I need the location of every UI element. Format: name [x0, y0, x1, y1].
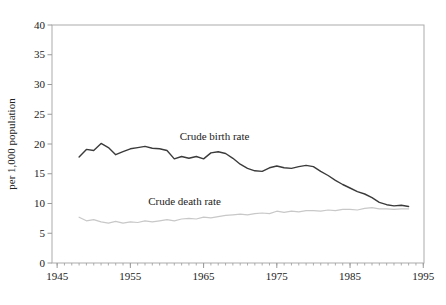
y-tick-label: 35 [34, 48, 46, 60]
plot-frame [52, 25, 424, 263]
y-tick-label: 5 [40, 227, 46, 239]
y-tick-label: 15 [34, 167, 46, 179]
y-tick-label: 20 [34, 138, 46, 150]
crude-birth-rate-line [79, 143, 409, 206]
y-tick-label: 30 [34, 78, 46, 90]
y-tick-label: 40 [34, 19, 46, 31]
x-tick-label: 1955 [119, 270, 142, 282]
crude-death-rate-line [79, 208, 409, 223]
y-tick-label: 0 [40, 257, 46, 269]
x-tick-label: 1975 [266, 270, 289, 282]
crude-birth-rate-label: Crude birth rate [180, 130, 250, 142]
crude-death-rate-label: Crude death rate [148, 195, 221, 207]
x-tick-label: 1995 [412, 270, 435, 282]
y-tick-label: 25 [34, 108, 46, 120]
x-tick-label: 1985 [339, 270, 362, 282]
crude-rates-chart: 0510152025303540194519551965197519851995… [0, 0, 446, 305]
chart-canvas: 0510152025303540194519551965197519851995… [0, 0, 446, 305]
y-axis-title: per 1,000 population [5, 98, 17, 190]
x-tick-label: 1965 [193, 270, 216, 282]
y-tick-label: 10 [34, 197, 46, 209]
x-tick-label: 1945 [46, 270, 69, 282]
